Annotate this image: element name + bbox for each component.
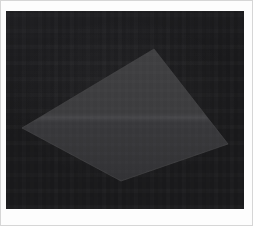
quadrilateral-svg xyxy=(6,11,244,209)
image-canvas xyxy=(0,0,253,226)
quadrilateral-shape xyxy=(22,49,228,181)
image-content-area xyxy=(6,11,244,209)
